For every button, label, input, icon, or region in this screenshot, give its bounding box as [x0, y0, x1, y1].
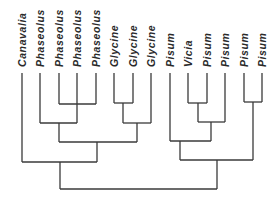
- leaf-label: Phaseolus: [53, 9, 65, 67]
- leaf-label: Glycine: [145, 25, 157, 67]
- leaf-label: Pisum: [238, 32, 250, 67]
- leaf-labels: CanavaliaPhaseolusPhaseolusPhaseolusPhas…: [16, 9, 268, 67]
- leaf-label: Phaseolus: [34, 9, 46, 67]
- leaf-label: Pisum: [219, 32, 231, 67]
- dendrogram: CanavaliaPhaseolusPhaseolusPhaseolusPhas…: [0, 0, 279, 200]
- tree-edges: [22, 73, 262, 189]
- leaf-label: Glycine: [127, 25, 139, 67]
- leaf-label: Pisum: [164, 32, 176, 67]
- leaf-label: Glycine: [108, 25, 120, 67]
- leaf-label: Pisum: [201, 32, 213, 67]
- leaf-label: Vicia: [182, 40, 194, 67]
- leaf-label: Phaseolus: [71, 9, 83, 67]
- leaf-label: Pisum: [256, 32, 268, 67]
- leaf-label: Canavalia: [16, 13, 28, 67]
- leaf-label: Phaseolus: [90, 9, 102, 67]
